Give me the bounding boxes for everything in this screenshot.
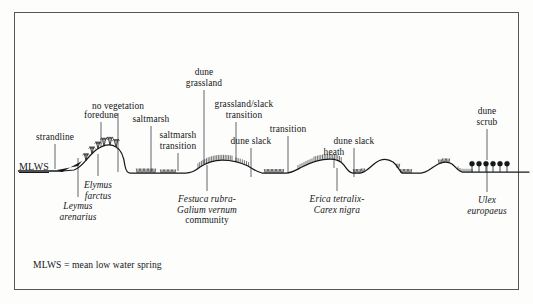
species-label-elymus-farctus: Elymus farctus (84, 180, 112, 201)
zone-label-grassland-slack: grassland/slack transition (215, 99, 274, 120)
saltmarsh-tuft-0 (136, 169, 139, 174)
dune-slack-tuft-4 (280, 169, 283, 173)
figure-caption: MLWS = mean low water spring (33, 259, 162, 270)
saltmarsh-transition-tuft-0 (160, 169, 163, 173)
dune-slack-tuft-1 (268, 169, 271, 173)
gorse-bush-3 (491, 161, 496, 172)
dune-slack-tuft-0 (264, 169, 267, 173)
saltmarsh-transition-tuft-2 (168, 169, 171, 173)
zone-label-dune-slack: dune slack (231, 136, 272, 147)
dune-succession-figure: MLWS strandlineforeduneno vegetationsalt… (0, 0, 533, 304)
gorse-bush-2 (484, 161, 489, 172)
species-label-leymus-arenarius: Leymus arenarius (59, 201, 96, 222)
dune-slack-tuft-3 (276, 169, 279, 173)
saltmarsh-transition-tuft-3 (172, 169, 175, 173)
slack-tuft-b-3 (408, 169, 411, 173)
zone-label-transition: transition (270, 124, 306, 135)
species-label-festuca-galium-binomial: Festuca rubra- Galium vernum (177, 194, 237, 215)
slack-tuft-b-1 (400, 169, 403, 173)
species-label-ulex-europaeus: Ulex europaeus (467, 195, 507, 216)
species-label-festuca-galium-community-word: community (185, 215, 229, 225)
zone-label-strandline: strandline (36, 132, 74, 143)
zone-label-dune-slack-2: dune slack (334, 136, 375, 147)
saltmarsh-tuft-1 (140, 169, 143, 174)
saltmarsh-transition-tuft-1 (164, 169, 167, 173)
zone-label-saltmarsh-transition: saltmarsh transition (160, 130, 197, 151)
gorse-bush-5 (505, 161, 510, 172)
slack-tuft-b-0 (396, 164, 399, 168)
zone-label-heath: heath (324, 147, 345, 158)
zone-label-dune-grassland: dune grassland (186, 67, 222, 88)
ground-profile (63, 145, 529, 173)
dune-slack2-tuft-2 (361, 168, 364, 172)
dune-slack2-tuft-1 (357, 169, 360, 173)
gorse-bush-1 (477, 161, 482, 172)
grass-tuft-foredune-1 (89, 147, 96, 154)
slack-tuft-b-2 (404, 169, 407, 173)
mlws-text: MLWS (19, 161, 49, 173)
mlws-label: MLWS (19, 161, 49, 172)
saltmarsh-tuft-2 (144, 169, 147, 174)
species-label-festuca-galium: Festuca rubra- Galium vernum community (177, 194, 237, 226)
vegetation-symbols (83, 137, 510, 173)
zone-label-dune-scrub: dune scrub (477, 106, 498, 127)
gorse-bush-4 (498, 161, 503, 172)
slack-tuft-c-2 (446, 158, 449, 162)
saltmarsh-tuft-4 (152, 169, 155, 174)
zone-label-no-vegetation: no vegetation (92, 101, 144, 112)
dune-slack-tuft-2 (272, 169, 275, 173)
zone-label-saltmarsh: saltmarsh (133, 114, 170, 125)
species-label-erica-carex: Erica tetralix- Carex nigra (310, 194, 365, 215)
slack-tuft-c-0 (438, 159, 441, 163)
slack-tuft-c-1 (442, 158, 445, 162)
